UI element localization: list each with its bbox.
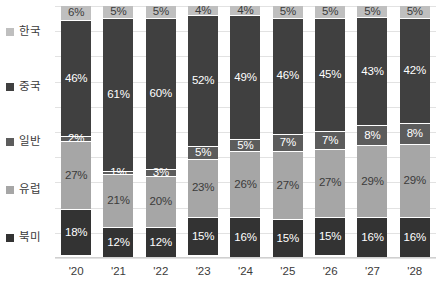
bar-segment[interactable]: 12% [103, 228, 133, 258]
bar-segment[interactable]: 5% [230, 140, 260, 153]
bar-segment[interactable]: 5% [400, 6, 430, 19]
bar-column[interactable]: 5%43%8%29%16% [357, 6, 387, 258]
bar-segment[interactable]: 21% [103, 175, 133, 228]
bar-column[interactable]: 5%60%3%20%12% [146, 6, 176, 258]
bar-segment-label: 6% [68, 7, 84, 19]
bar-segment[interactable]: 26% [230, 152, 260, 218]
bar-segment[interactable]: 8% [357, 126, 387, 146]
legend-item-1[interactable]: 중국 [6, 81, 41, 93]
x-tick-label: '28 [400, 262, 430, 278]
x-tick-label: '25 [273, 262, 303, 278]
bar-segment-label: 43% [361, 66, 383, 78]
legend-item-2[interactable]: 일반 [6, 136, 41, 148]
bar-segment[interactable]: 16% [357, 218, 387, 258]
bar-segment[interactable]: 8% [400, 124, 430, 144]
bar-segment-label: 16% [234, 232, 256, 244]
x-tick-label: '26 [315, 262, 345, 278]
bar-column[interactable]: 5%61%1%21%12% [103, 6, 133, 258]
bar-segment[interactable]: 20% [146, 177, 176, 227]
x-tick-label: '27 [357, 262, 387, 278]
x-axis-line [55, 257, 436, 258]
bar-segment-label: 60% [150, 88, 172, 100]
bar-column[interactable]: 4%49%5%26%16% [230, 6, 260, 258]
bar-segment-label: 27% [277, 180, 299, 192]
bar-segment[interactable]: 5% [315, 6, 345, 19]
bar-segment[interactable]: 7% [315, 132, 345, 150]
bar-segment-label: 20% [150, 196, 172, 208]
legend-swatch-icon [6, 186, 14, 194]
bar-segment[interactable]: 42% [400, 19, 430, 125]
bar-segment[interactable]: 16% [230, 218, 260, 258]
bar-segment-label: 7% [322, 135, 338, 147]
x-axis-tick-labels: '20'21'22'23'24'25'26'27'28 [55, 262, 436, 286]
bar-segment[interactable]: 5% [146, 6, 176, 19]
legend-swatch-icon [6, 138, 14, 146]
bar-segment[interactable]: 46% [61, 21, 91, 137]
bar-segment[interactable]: 46% [273, 19, 303, 135]
gridline [55, 258, 436, 259]
bar-segment[interactable]: 43% [357, 18, 387, 125]
bar-segment[interactable]: 4% [230, 6, 260, 16]
bar-segment-label: 26% [234, 179, 256, 191]
bar-segment[interactable]: 23% [188, 160, 218, 218]
bar-segment[interactable]: 18% [61, 210, 91, 255]
bar-segment[interactable]: 5% [357, 6, 387, 18]
bar-segment[interactable]: 60% [146, 19, 176, 170]
bar-column[interactable]: 5%42%8%29%16% [400, 6, 430, 258]
bar-column[interactable]: 6%46%2%27%18% [61, 6, 91, 258]
bar-segment[interactable]: 4% [188, 6, 218, 16]
bar-segment-label: 16% [361, 232, 383, 244]
bar-segment-label: 5% [407, 6, 423, 18]
bar-segment[interactable]: 12% [146, 228, 176, 258]
bar-segment-label: 5% [237, 140, 253, 152]
bar-segment[interactable]: 15% [273, 220, 303, 258]
bar-segment-label: 18% [65, 227, 87, 239]
bar-segment[interactable]: 29% [400, 145, 430, 218]
bar-segment-label: 52% [192, 75, 214, 87]
bar-column[interactable]: 4%52%5%23%15% [188, 6, 218, 258]
bar-segment[interactable]: 7% [273, 135, 303, 153]
legend-item-4[interactable]: 북미 [6, 232, 41, 244]
x-tick-label: '22 [146, 262, 176, 278]
bar-segment[interactable]: 52% [188, 16, 218, 147]
bar-segment[interactable]: 45% [315, 19, 345, 132]
bar-segment[interactable]: 27% [315, 150, 345, 218]
bar-segment-label: 46% [65, 73, 87, 85]
bar-segment-label: 5% [280, 6, 296, 18]
bar-column[interactable]: 5%45%7%27%15% [315, 6, 345, 258]
bar-segment-label: 8% [407, 128, 423, 140]
bar-segment-label: 42% [404, 65, 426, 77]
bar-segment-label: 49% [234, 72, 256, 84]
bar-segment[interactable]: 6% [61, 6, 91, 21]
bar-segment[interactable]: 15% [188, 218, 218, 256]
x-tick-label: '21 [103, 262, 133, 278]
bar-column[interactable]: 5%46%7%27%15% [273, 6, 303, 258]
bar-segment[interactable]: 5% [103, 6, 133, 19]
bar-segment-label: 15% [319, 231, 341, 243]
bar-segment[interactable]: 29% [357, 146, 387, 218]
bar-segment-label: 12% [150, 237, 172, 249]
bar-segment[interactable]: 3% [146, 170, 176, 178]
bar-segment-label: 5% [110, 6, 126, 18]
bar-segment-label: 45% [319, 69, 341, 81]
bar-segment[interactable]: 16% [400, 218, 430, 258]
plot-area: 6%46%2%27%18%5%61%1%21%12%5%60%3%20%12%4… [55, 6, 436, 258]
bar-segment-label: 27% [65, 170, 87, 182]
legend-item-label: 한국 [19, 26, 41, 38]
legend-item-0[interactable]: 한국 [6, 26, 41, 38]
stacked-bar-chart: 한국중국일반유럽북미 6%46%2%27%18%5%61%1%21%12%5%6… [0, 0, 436, 289]
bar-segment[interactable]: 49% [230, 16, 260, 139]
bar-segment-label: 16% [404, 232, 426, 244]
bar-segment-label: 12% [107, 237, 129, 249]
bar-segment[interactable]: 27% [273, 152, 303, 220]
legend-swatch-icon [6, 234, 14, 242]
legend-item-label: 중국 [19, 81, 41, 93]
bar-segment-label: 46% [277, 70, 299, 82]
x-tick-label: '23 [188, 262, 218, 278]
bar-segment[interactable]: 5% [273, 6, 303, 19]
bar-segment[interactable]: 15% [315, 218, 345, 256]
bar-segment[interactable]: 27% [61, 142, 91, 210]
bar-segment[interactable]: 61% [103, 19, 133, 173]
legend-item-3[interactable]: 유럽 [6, 184, 41, 196]
bar-segment[interactable]: 5% [188, 147, 218, 160]
